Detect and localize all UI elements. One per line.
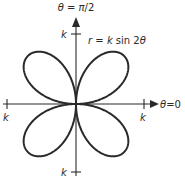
- vertical-axis-arrowhead-icon: [72, 17, 80, 27]
- polar-axis-arrowhead-icon: [150, 100, 159, 108]
- tick-label-right: k: [140, 112, 147, 123]
- polar-axis-label: θ=0: [160, 99, 181, 110]
- vertical-axis-label: θ = π/2: [58, 2, 95, 13]
- equation-label: r = k sin 2θ: [88, 35, 146, 46]
- polar-rose-diagram: θ = π/2 θ=0 r = k sin 2θ k k k k: [0, 0, 185, 182]
- tick-label-top: k: [61, 29, 68, 40]
- tick-label-bottom: k: [61, 167, 68, 178]
- tick-label-left: k: [3, 112, 10, 123]
